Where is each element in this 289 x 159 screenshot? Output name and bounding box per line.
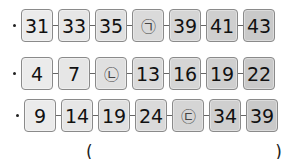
sequence-cell: 31 [21, 9, 53, 42]
sequence-cell: 24 [135, 99, 167, 132]
bullet-icon [16, 114, 19, 117]
sequence-cell: 34 [209, 99, 241, 132]
sequence-cell: 41 [206, 9, 238, 42]
sequence-cell: 19 [98, 99, 130, 132]
sequence-row-2: 4 7 ㉡ 13 16 19 22 [0, 57, 289, 90]
bullet-icon [13, 72, 16, 75]
sequence-cell: 39 [246, 99, 278, 132]
sequence-cell: 7 [58, 57, 90, 90]
bullet-icon [13, 24, 16, 27]
sequence-cell: 19 [206, 57, 238, 90]
sequence-cell: 22 [243, 57, 275, 90]
sequence-cell: 33 [58, 9, 90, 42]
sequence-cell: 4 [21, 57, 53, 90]
answer-field[interactable]: ( ) [86, 142, 282, 159]
sequence-cell: 16 [169, 57, 201, 90]
sequence-cell: 13 [132, 57, 164, 90]
blank-cell-nieun[interactable]: ㉡ [95, 57, 127, 90]
sequence-cell: 39 [169, 9, 201, 42]
blank-cell-digeut[interactable]: ㉢ [172, 99, 204, 132]
open-paren: ( [86, 142, 93, 159]
sequence-cell: 43 [243, 9, 275, 42]
sequence-cell: 14 [61, 99, 93, 132]
blank-cell-giyeok[interactable]: ㉠ [132, 9, 164, 42]
sequence-row-1: 31 33 35 ㉠ 39 41 43 [0, 9, 289, 42]
sequence-cell: 35 [95, 9, 127, 42]
sequence-cell: 9 [24, 99, 56, 132]
close-paren: ) [275, 142, 282, 159]
sequence-row-3: 9 14 19 24 ㉢ 34 39 [0, 99, 289, 132]
